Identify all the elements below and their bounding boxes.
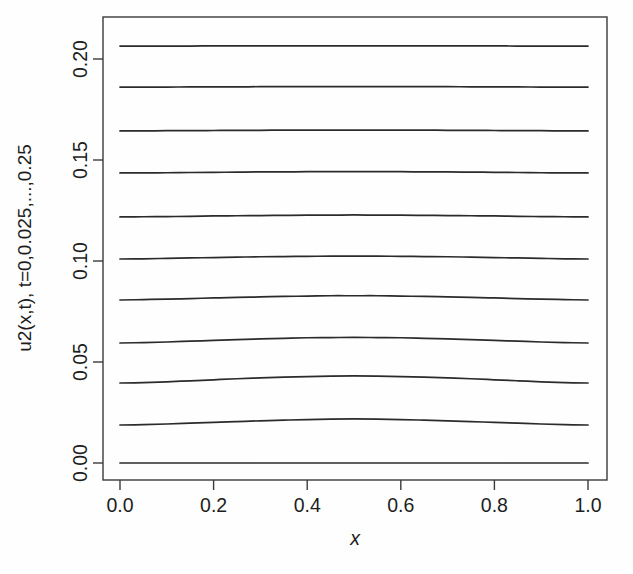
data-curve <box>120 376 588 383</box>
y-tick-label: 0.15 <box>69 141 91 179</box>
x-tick-label: 0.0 <box>106 494 133 516</box>
data-curve <box>120 130 588 131</box>
x-tick-label: 0.2 <box>200 494 227 516</box>
y-axis-ticks <box>93 59 103 463</box>
y-axis-title: u2(x,t), t=0,0.025,...,0.25 <box>14 144 35 352</box>
y-axis-tick-labels: 0.000.050.100.150.20 <box>69 40 91 482</box>
data-curve <box>120 215 588 217</box>
x-tick-label: 0.6 <box>387 494 414 516</box>
data-curve <box>120 256 588 259</box>
data-curve <box>120 337 588 343</box>
data-curve <box>120 172 588 173</box>
figure-container: 0.00.20.40.60.81.0 0.000.050.100.150.20 … <box>0 0 633 574</box>
y-tick-label: 0.20 <box>69 40 91 78</box>
x-tick-label: 1.0 <box>574 494 601 516</box>
x-axis-title: x <box>349 527 361 549</box>
data-curve <box>120 419 588 425</box>
x-tick-label: 0.4 <box>294 494 321 516</box>
x-axis-tick-labels: 0.00.20.40.60.81.0 <box>106 494 601 516</box>
curves-group <box>120 46 588 463</box>
line-chart: 0.00.20.40.60.81.0 0.000.050.100.150.20 … <box>0 0 633 574</box>
data-curve <box>120 296 588 300</box>
y-tick-label: 0.10 <box>69 242 91 280</box>
x-tick-label: 0.8 <box>481 494 508 516</box>
x-axis-ticks <box>120 480 588 490</box>
y-tick-label: 0.00 <box>69 444 91 482</box>
y-tick-label: 0.05 <box>69 343 91 381</box>
